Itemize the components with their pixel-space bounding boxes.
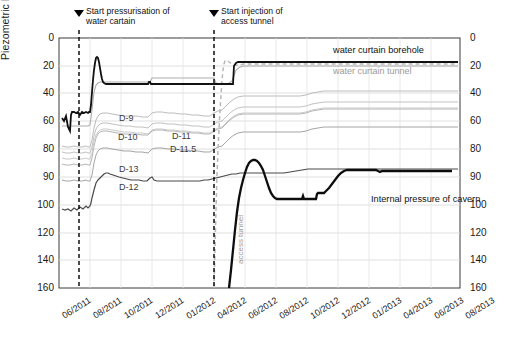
series-label-d-11-5: D-11.5 [170, 144, 196, 154]
series-label-d-10: D-10 [118, 132, 138, 142]
series-label-d-9: D-9 [119, 113, 134, 123]
series-label-water-curtain-tunnel: water curtain tunnel [333, 66, 412, 76]
series-label-d-11: D-11 [172, 131, 191, 141]
plot-canvas [0, 0, 514, 339]
series-line-internal-pressure-cavern [229, 160, 452, 288]
series-label-water-curtain-borehole: water curtain borehole [333, 45, 424, 55]
series-label-d-13: D-13 [119, 164, 139, 174]
series-label-internal-pressure-cavern: Internal pressure of cavern [371, 194, 480, 204]
series-line-access-tunnel [214, 60, 458, 288]
series-label-access-tunnel: access tunnel [236, 215, 245, 264]
series-label-d-12: D-12 [119, 182, 139, 192]
piezometric-head-chart: Piezometric head (m SL) 0 20 40 60 80 90… [0, 0, 514, 339]
